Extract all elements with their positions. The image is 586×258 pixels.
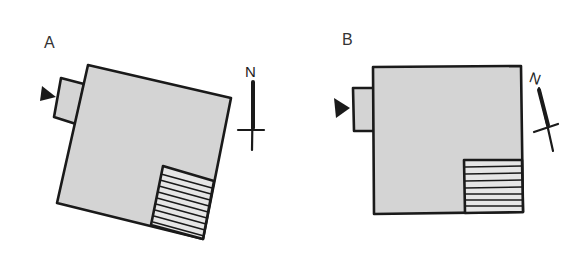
diagram-canvas: A N B (0, 0, 586, 258)
north-arrow-b: N (527, 68, 558, 151)
diagram-a-label: A (44, 34, 55, 51)
hatched-area-a (151, 166, 214, 239)
north-arrow-a: N (238, 63, 264, 150)
entry-arrow-icon (334, 98, 350, 118)
diagram-b: B N (334, 31, 558, 214)
hatched-area-b (464, 160, 523, 213)
north-label-a: N (245, 63, 256, 80)
entry-arrow-icon (40, 86, 56, 101)
diagram-a: A N (40, 34, 264, 239)
diagram-b-label: B (342, 31, 353, 48)
north-label-b: N (527, 68, 543, 88)
entry-annex-b (353, 88, 374, 131)
